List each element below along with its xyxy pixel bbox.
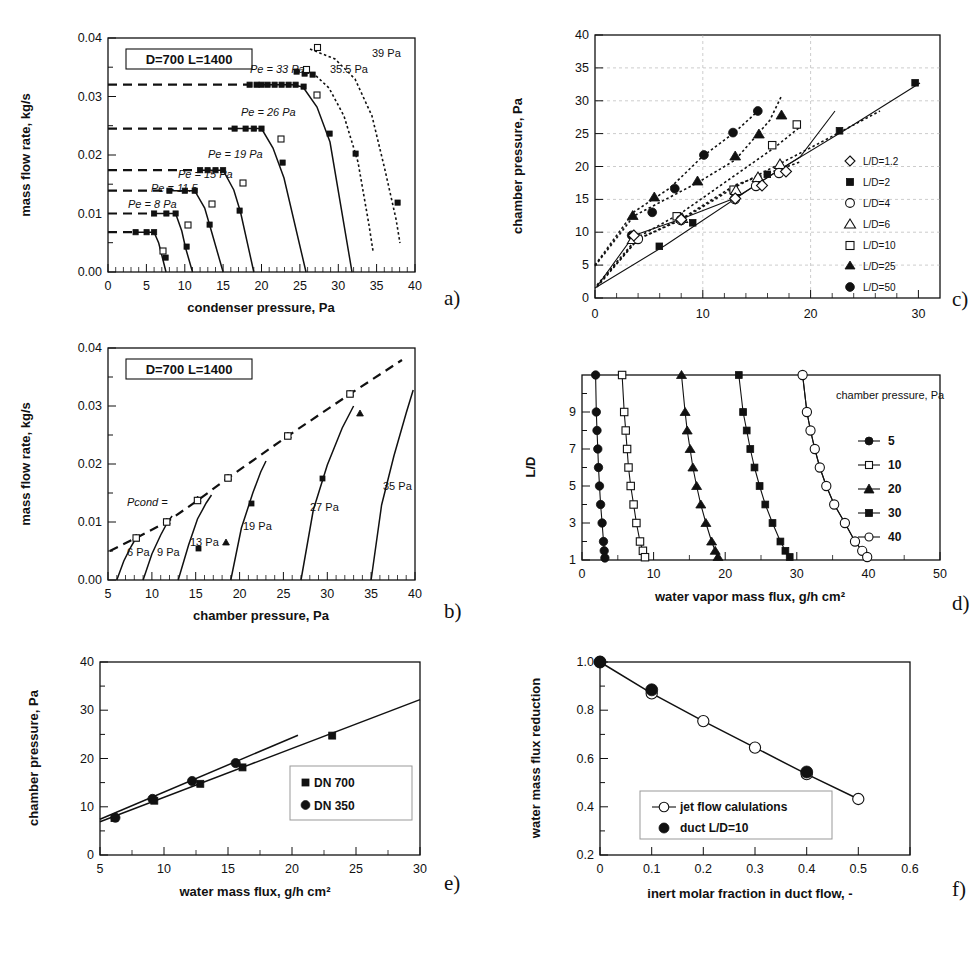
x-axis-label-d: water vapor mass flux, g/h cm² (654, 589, 846, 604)
y-tick-a-3: 0.03 (78, 90, 102, 104)
panel-c-svg: 0 5 10 15 20 25 30 35 40 chamber pressur… (490, 10, 979, 360)
panel-e: 0 10 20 30 40 chamber pressure, Pa 5 10 … (0, 640, 470, 955)
x-tick-a-2: 10 (178, 279, 192, 293)
y-tick-c-0: 0 (582, 291, 589, 305)
legend-e-label-1: DN 350 (314, 799, 355, 813)
x-tick-b-4: 25 (276, 587, 290, 601)
y-axis-label-c: chamber pressure, Pa (510, 97, 525, 234)
y-tick-b-0: 0.00 (78, 573, 102, 587)
x-axis-ticks-d (582, 552, 940, 560)
legend-c-label-0: L/D=1.2 (863, 156, 899, 167)
x-tick-e-3: 20 (285, 862, 299, 876)
curve-label-a-1: Pe = 11.5 (151, 182, 198, 194)
x-tick-d-2: 20 (718, 567, 732, 581)
panel-id-c: c) (952, 287, 968, 311)
x-tick-e-5: 30 (413, 862, 427, 876)
curve-label-b-3: 19 Pa (243, 520, 273, 532)
annotation-box-a-label: D=700 L=1400 (146, 52, 233, 67)
y-tick-f-3: 0.8 (577, 703, 594, 717)
y-tick-c-5: 25 (575, 127, 589, 141)
y-tick-d-2: 5 (569, 479, 576, 493)
legend-c: L/D=1.2 L/D=2 L/D=4 L/D=6 L/D=10 L/D=25 … (845, 156, 899, 293)
y-tick-d-3: 7 (569, 442, 576, 456)
y-tick-d-0: 1 (569, 553, 576, 567)
y-tick-a-0: 0.00 (78, 265, 102, 279)
y-tick-f-1: 0.4 (577, 800, 594, 814)
curve-label-a-2: Pe = 15 Pa (178, 168, 233, 180)
x-tick-e-0: 5 (97, 862, 104, 876)
y-axis-ticks-a (108, 38, 116, 272)
x-tick-f-3: 0.3 (746, 862, 763, 876)
panel-b-svg: 0.00 0.01 0.02 0.03 0.04 mass flow rate,… (0, 318, 470, 648)
panel-id-f: f) (952, 877, 966, 901)
x-tick-a-5: 25 (293, 279, 307, 293)
legend-marker-f-1 (659, 823, 669, 833)
legend-marker-e-1 (301, 801, 310, 810)
legend-f-label-0: jet flow calulations (679, 800, 788, 814)
curve-label-a-5: Pe = 33 Pa (250, 63, 305, 75)
x-tick-d-3: 30 (790, 567, 804, 581)
legend-c-label-3: L/D=6 (863, 219, 890, 230)
y-tick-e-4: 40 (80, 655, 94, 669)
x-tick-f-0: 0 (597, 862, 604, 876)
x-tick-e-1: 10 (157, 862, 171, 876)
y-tick-b-2: 0.02 (78, 457, 102, 471)
y-axis-ticks-d (582, 394, 590, 561)
markers-open-b (133, 391, 353, 541)
y-axis-ticks-b (108, 348, 116, 580)
x-tick-b-5: 30 (320, 587, 334, 601)
y-tick-f-4: 1.0 (577, 655, 594, 669)
y-tick-f-2: 0.6 (577, 752, 594, 766)
x-tick-b-0: 5 (105, 587, 112, 601)
legend-c-label-5: L/D=25 (863, 261, 896, 272)
panel-id-b: b) (444, 599, 462, 623)
curve-label-b-2: 13 Pa (190, 536, 220, 548)
legend-marker-e-0 (302, 779, 309, 786)
fit-line-dn350-e (100, 735, 298, 819)
curve-label-a-6: 35.5 Pa (330, 63, 369, 75)
x-tick-a-6: 30 (331, 279, 345, 293)
y-tick-c-6: 30 (575, 94, 589, 108)
x-tick-d-1: 10 (647, 567, 661, 581)
y-tick-b-3: 0.03 (78, 399, 102, 413)
y-tick-c-4: 20 (575, 160, 589, 174)
panel-d-svg: 1 3 5 7 9 L/D 0 10 20 30 40 50 water vap… (490, 355, 979, 640)
x-tick-f-4: 0.4 (798, 862, 815, 876)
y-axis-label-e: chamber pressure, Pa (26, 689, 41, 826)
legend-c-label-6: L/D=50 (863, 282, 896, 293)
x-tick-a-8: 40 (408, 279, 422, 293)
y-axis-label-d: L/D (523, 457, 538, 478)
panel-b: 0.00 0.01 0.02 0.03 0.04 mass flow rate,… (0, 318, 470, 648)
y-tick-d-1: 3 (569, 516, 576, 530)
legend-c-label-2: L/D=4 (863, 198, 890, 209)
y-tick-a-1: 0.01 (78, 207, 102, 221)
plot-frame-b (108, 348, 415, 580)
x-axis-ticks-a (108, 264, 415, 272)
y-tick-c-7: 35 (575, 61, 589, 75)
x-tick-b-3: 20 (233, 587, 247, 601)
panel-id-e: e) (444, 871, 460, 895)
x-tick-c-1: 10 (696, 307, 710, 321)
x-tick-e-2: 15 (221, 862, 235, 876)
x-tick-a-7: 35 (370, 279, 384, 293)
y-tick-e-0: 0 (87, 848, 94, 862)
legend-d-label-0: 5 (888, 434, 895, 448)
curve-label-a-7: 39 Pa (372, 47, 402, 59)
curve-legend-prefix-b: Pcond = (127, 496, 168, 508)
panel-f-svg: 0.2 0.4 0.6 0.8 1.0 water mass flux redu… (500, 640, 979, 955)
y-tick-a-2: 0.02 (78, 148, 102, 162)
annotation-box-b-label: D=700 L=1400 (146, 362, 233, 377)
y-tick-d-4: 9 (569, 405, 576, 419)
x-tick-b-1: 10 (145, 587, 159, 601)
panel-d: 1 3 5 7 9 L/D 0 10 20 30 40 50 water vap… (490, 355, 979, 640)
plot-frame-d (582, 375, 940, 560)
panel-id-a: a) (444, 286, 460, 310)
legend-d-label-4: 40 (888, 530, 902, 544)
y-tick-c-1: 5 (582, 258, 589, 272)
x-tick-f-6: 0.6 (901, 862, 918, 876)
y-tick-e-1: 10 (80, 800, 94, 814)
legend-d-title: chamber pressure, Pa (836, 389, 945, 401)
y-tick-c-3: 15 (575, 192, 589, 206)
x-tick-b-2: 15 (189, 587, 203, 601)
curve-f (600, 662, 858, 799)
